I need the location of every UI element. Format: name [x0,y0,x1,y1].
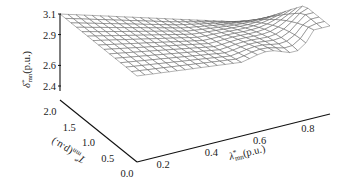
x-tick-label: 0.8 [301,123,314,134]
surface-mesh [60,6,330,76]
surface-plot: 3.12.92.62.40.00.51.01.52.00.20.40.60.8 … [0,0,349,182]
z-tick-label: 2.6 [43,60,56,71]
x-tick-label: 0.4 [205,147,219,158]
z-axis-label: δ*mn(p.u.) [20,50,34,88]
x-axis-label: λ*mn(p.u.) [227,142,267,164]
z-tick-label: 3.1 [43,9,56,20]
y-tick-label: 0.0 [120,168,133,179]
z-tick-label: 2.9 [43,30,56,41]
z-tick-label: 2.4 [43,81,57,92]
y-tick-label: 1.0 [82,137,95,148]
y-tick-label: 0.5 [101,153,114,164]
y-tick-label: 2.0 [43,106,56,117]
x-tick-label: 0.2 [157,159,170,170]
y-tick-label: 1.5 [63,122,76,133]
